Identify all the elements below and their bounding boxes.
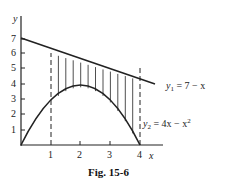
curve-y2 xyxy=(21,85,140,145)
y-tick-labels: 1 2 3 4 5 6 7 xyxy=(11,33,16,135)
svg-text:2: 2 xyxy=(11,108,16,119)
svg-text:3: 3 xyxy=(11,93,16,104)
svg-text:1: 1 xyxy=(48,149,53,160)
label-y2: y2 = 4x − x2 xyxy=(142,117,191,131)
svg-text:6: 6 xyxy=(11,47,16,58)
svg-text:4: 4 xyxy=(137,149,142,160)
svg-text:2: 2 xyxy=(77,149,82,160)
label-y1: y1 = 7 − x xyxy=(165,80,205,93)
svg-text:7: 7 xyxy=(11,33,16,44)
svg-text:4: 4 xyxy=(11,78,16,89)
y-axis-label: y xyxy=(12,13,18,24)
svg-text:1: 1 xyxy=(11,124,16,135)
x-axis-label: x xyxy=(148,150,154,161)
hatched-region xyxy=(58,56,132,134)
x-tick-labels: 1 2 3 4 xyxy=(48,149,142,160)
svg-text:3: 3 xyxy=(107,149,112,160)
svg-text:5: 5 xyxy=(11,62,16,73)
figure: y x 1 2 3 4 5 6 7 1 2 3 4 xyxy=(0,0,229,183)
figure-caption: Fig. 15-6 xyxy=(88,166,129,178)
